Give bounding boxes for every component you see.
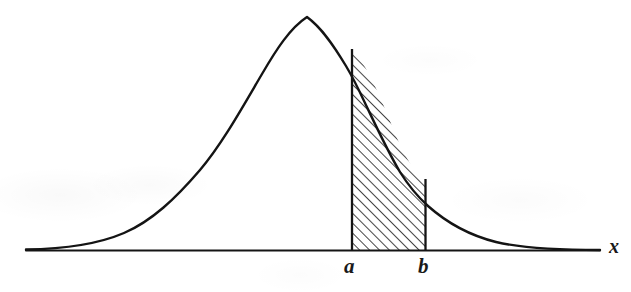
boundary-label-b: b [418, 256, 429, 277]
boundary-label-a: a [344, 256, 355, 277]
normal-curve-path [26, 17, 600, 250]
figure-canvas [0, 0, 631, 292]
normal-curve-figure: a b x [0, 0, 631, 292]
shaded-region-a-to-b [350, 44, 428, 254]
x-axis-label: x [609, 236, 619, 256]
